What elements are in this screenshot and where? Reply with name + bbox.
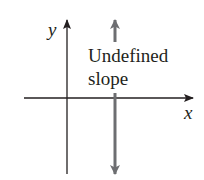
line-label-line1: Undefined	[88, 45, 169, 66]
x-axis-label: x	[183, 102, 193, 123]
undefined-slope-diagram: y x Undefined slope	[0, 0, 204, 180]
y-axis-label: y	[46, 19, 57, 40]
line-label-line2: slope	[88, 68, 128, 89]
